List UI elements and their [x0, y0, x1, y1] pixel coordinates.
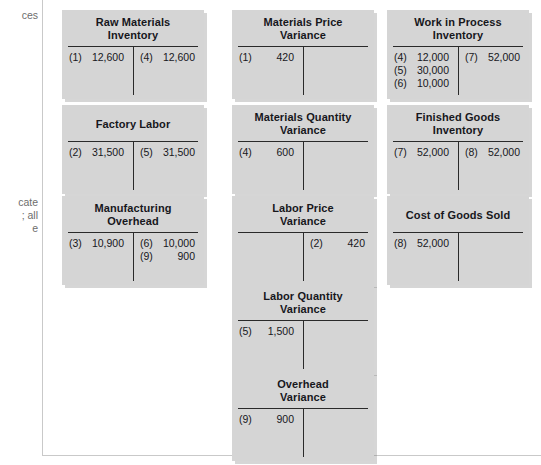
- t-account-body: (4)600: [232, 142, 374, 194]
- t-account-center-divider: [458, 47, 459, 95]
- entry-amount: 900: [162, 250, 195, 263]
- t-account-center-divider: [303, 233, 304, 281]
- t-account-debit-side: (8)52,000: [387, 233, 458, 285]
- t-account-credit-side: (8)52,000: [458, 142, 529, 194]
- t-account-entry: (2)31,500: [62, 146, 133, 159]
- t-account-title: Raw MaterialsInventory: [62, 10, 204, 46]
- t-account-title: Labor QuantityVariance: [232, 284, 374, 320]
- t-account-debit-side: (4)600: [232, 142, 303, 194]
- entry-reference: (7): [465, 51, 487, 64]
- entry-amount: 900: [261, 413, 294, 426]
- t-account-center-divider: [303, 321, 304, 369]
- t-account-body: (1)12,600(4)12,600: [62, 47, 204, 99]
- t-account-body: (5)1,500: [232, 321, 374, 373]
- entry-amount: 52,000: [416, 237, 449, 250]
- t-account-entry: (7)52,000: [458, 51, 529, 64]
- t-account-center-divider: [303, 47, 304, 95]
- entry-reference: (5): [239, 325, 261, 338]
- t-account-title: Work in ProcessInventory: [387, 10, 529, 46]
- t-account-work-in-process-inventory: Work in ProcessInventory(4)12,000(5)30,0…: [387, 10, 529, 99]
- t-account-debit-side: (7)52,000: [387, 142, 458, 194]
- t-account-credit-side: (6)10,000(9)900: [133, 233, 204, 285]
- t-account-debit-side: (4)12,000(5)30,000(6)10,000: [387, 47, 458, 99]
- t-account-credit-side: (5)31,500: [133, 142, 204, 194]
- t-account-overhead-variance: OverheadVariance(9)900: [232, 372, 374, 461]
- t-account-entry: (6)10,000: [133, 237, 204, 250]
- t-account-factory-labor: Factory Labor(2)31,500(5)31,500: [62, 105, 204, 194]
- entry-reference: (3): [69, 237, 91, 250]
- entry-reference: (4): [239, 146, 261, 159]
- t-account-title-line2: Variance: [236, 391, 370, 404]
- t-account-credit-side: (2)420: [303, 233, 374, 285]
- t-account-title-line1: Raw Materials: [66, 16, 200, 29]
- t-account-materials-quantity-variance: Materials QuantityVariance(4)600: [232, 105, 374, 194]
- entry-amount: 420: [261, 51, 294, 64]
- t-account-credit-side: [303, 142, 374, 194]
- t-account-title-line1: Manufacturing: [66, 202, 200, 215]
- t-account-debit-side: (1)420: [232, 47, 303, 99]
- margin-note-middle: cate ; all e: [0, 196, 38, 235]
- t-account-debit-side: [232, 233, 303, 285]
- t-account-center-divider: [458, 233, 459, 281]
- t-account-entry: (6)10,000: [387, 77, 458, 90]
- entry-amount: 10,000: [416, 77, 449, 90]
- entry-amount: 12,600: [91, 51, 124, 64]
- t-account-center-divider: [303, 142, 304, 190]
- t-account-body: (9)900: [232, 409, 374, 461]
- t-account-debit-side: (3)10,900: [62, 233, 133, 285]
- entry-reference: (9): [239, 413, 261, 426]
- t-account-entry: (2)420: [303, 237, 374, 250]
- t-account-title-line1: Work in Process: [391, 16, 525, 29]
- t-account-title-line2: Overhead: [66, 215, 200, 228]
- entry-reference: (4): [394, 51, 416, 64]
- t-account-body: (3)10,900(6)10,000(9)900: [62, 233, 204, 285]
- entry-reference: (6): [140, 237, 162, 250]
- t-account-title-line1: Factory Labor: [66, 118, 200, 131]
- t-account-entry: (5)30,000: [387, 64, 458, 77]
- t-account-title-line2: Variance: [236, 29, 370, 42]
- t-account-body: (2)31,500(5)31,500: [62, 142, 204, 194]
- t-account-credit-side: (7)52,000: [458, 47, 529, 99]
- t-account-entry: (7)52,000: [387, 146, 458, 159]
- t-account-entry: (4)600: [232, 146, 303, 159]
- t-account-title: Labor PriceVariance: [232, 196, 374, 232]
- t-account-title-line2: Inventory: [66, 29, 200, 42]
- t-account-title-line2: Variance: [236, 303, 370, 316]
- entry-amount: 10,900: [91, 237, 124, 250]
- t-account-raw-materials-inventory: Raw MaterialsInventory(1)12,600(4)12,600: [62, 10, 204, 99]
- margin-vertical-rule: [42, 0, 43, 456]
- entry-reference: (2): [69, 146, 91, 159]
- t-account-credit-side: [303, 47, 374, 99]
- t-account-entry: (3)10,900: [62, 237, 133, 250]
- t-account-title-line2: Inventory: [391, 29, 525, 42]
- t-account-title-line2: Variance: [236, 215, 370, 228]
- entry-amount: 52,000: [416, 146, 449, 159]
- t-account-title-line1: Materials Price: [236, 16, 370, 29]
- t-account-title-line1: Labor Price: [236, 202, 370, 215]
- t-account-manufacturing-overhead: ManufacturingOverhead(3)10,900(6)10,000(…: [62, 196, 204, 285]
- t-account-finished-goods-inventory: Finished GoodsInventory(7)52,000(8)52,00…: [387, 105, 529, 194]
- t-account-entry: (5)31,500: [133, 146, 204, 159]
- entry-amount: 10,000: [162, 237, 195, 250]
- margin-note-top: ces: [0, 9, 38, 22]
- t-account-center-divider: [133, 142, 134, 190]
- entry-reference: (8): [465, 146, 487, 159]
- t-account-entry: (4)12,000: [387, 51, 458, 64]
- t-account-title-line1: Cost of Goods Sold: [391, 209, 525, 222]
- entry-amount: 30,000: [416, 64, 449, 77]
- t-account-title-line1: Materials Quantity: [236, 111, 370, 124]
- t-account-entry: (9)900: [232, 413, 303, 426]
- t-account-title: Cost of Goods Sold: [387, 196, 529, 232]
- t-account-debit-side: (1)12,600: [62, 47, 133, 99]
- t-account-body: (2)420: [232, 233, 374, 285]
- t-account-title: OverheadVariance: [232, 372, 374, 408]
- t-account-entry: (8)52,000: [458, 146, 529, 159]
- t-account-credit-side: [303, 321, 374, 373]
- t-account-title: ManufacturingOverhead: [62, 196, 204, 232]
- t-account-entry: (8)52,000: [387, 237, 458, 250]
- entry-reference: (6): [394, 77, 416, 90]
- t-account-entry: (5)1,500: [232, 325, 303, 338]
- t-account-entry: (1)12,600: [62, 51, 133, 64]
- entry-reference: (1): [69, 51, 91, 64]
- t-account-title-line1: Finished Goods: [391, 111, 525, 124]
